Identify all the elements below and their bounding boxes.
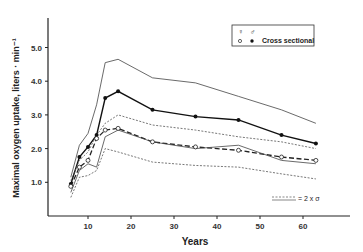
- legend-cross-sectional: Cross sectional: [262, 37, 314, 44]
- y-tick-label: 2.0: [31, 145, 43, 154]
- x-tick-label: 30: [170, 222, 179, 231]
- female-data-point: [116, 126, 120, 130]
- y-tick-label: 5.0: [31, 44, 43, 53]
- male-data-point: [194, 115, 198, 119]
- x-axis-ticks: 102030405060: [84, 216, 308, 231]
- female-data-point: [103, 128, 107, 132]
- male-data-point: [86, 145, 90, 149]
- legend-male-symbol: ♂: [250, 28, 255, 35]
- y-axis-label: Maximal oxygen uptake, liters · min⁻¹: [11, 38, 21, 198]
- series-line: [71, 91, 316, 184]
- x-tick-label: 10: [84, 222, 93, 231]
- data-series: [69, 59, 318, 197]
- x-axis-label: Years: [182, 236, 209, 247]
- series-line: [71, 149, 316, 198]
- x-tick-label: 40: [213, 222, 222, 231]
- female-data-point: [77, 165, 81, 169]
- male-data-point: [237, 118, 241, 122]
- female-data-point: [194, 145, 198, 149]
- male-data-point: [314, 142, 318, 146]
- female-data-point: [314, 158, 318, 162]
- female-data-point: [151, 140, 155, 144]
- x-tick-label: 60: [299, 222, 308, 231]
- female-data-point: [237, 148, 241, 152]
- y-tick-label: 4.0: [31, 77, 43, 86]
- y-tick-label: 3.0: [31, 111, 43, 120]
- male-data-point: [77, 155, 81, 159]
- sigma-note: = 2 x σ: [272, 195, 320, 202]
- female-data-point: [95, 136, 99, 140]
- male-data-point: [151, 108, 155, 112]
- y-tick-label: 1.0: [31, 178, 43, 187]
- oxygen-uptake-chart: 1.02.03.04.05.0 102030405060 Maximal oxy…: [0, 0, 363, 252]
- legend-female-symbol: ♀: [238, 28, 243, 35]
- y-axis-ticks: 1.02.03.04.05.0: [31, 44, 48, 188]
- male-data-point: [280, 133, 284, 137]
- female-data-point: [69, 184, 73, 188]
- female-data-point: [280, 155, 284, 159]
- series-line: [71, 130, 316, 192]
- male-data-point: [103, 96, 107, 100]
- legend: ♀ ♂ Cross sectional: [232, 25, 314, 46]
- x-tick-label: 20: [127, 222, 136, 231]
- male-data-point: [116, 89, 120, 93]
- x-tick-label: 50: [256, 222, 265, 231]
- sigma-note-text: = 2 x σ: [298, 195, 320, 202]
- female-data-point: [86, 158, 90, 162]
